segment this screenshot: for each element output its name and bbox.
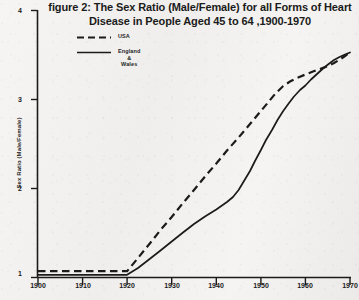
plot-area bbox=[0, 0, 359, 300]
x-axis-ticks bbox=[38, 278, 350, 286]
y-axis-ticks bbox=[31, 11, 38, 278]
series-usa bbox=[38, 53, 350, 272]
series-england-wales bbox=[38, 53, 350, 275]
figure-container: figure 2: The Sex Ratio (Male/Female) fo… bbox=[0, 0, 359, 300]
